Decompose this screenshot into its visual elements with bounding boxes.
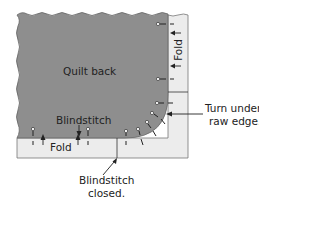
blindstitch-closed-label-line1: Blindstitch — [79, 174, 134, 186]
blindstitch-closed-label-line2: closed. — [88, 187, 125, 199]
blindstitch-label: Blindstitch — [56, 114, 111, 126]
turn-under-label-line1: Turn under — [205, 102, 259, 114]
turn-under-label-line2: raw edge. — [209, 115, 259, 127]
fold-bottom-label: Fold — [50, 141, 72, 153]
quilt-back-label: Quilt back — [63, 65, 116, 77]
fold-right-label: Fold — [172, 38, 184, 62]
blindstitch-closed-leader-arrow-icon — [103, 158, 117, 175]
